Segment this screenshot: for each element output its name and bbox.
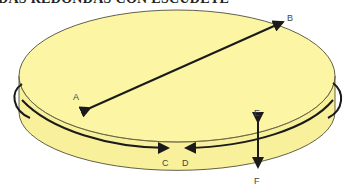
round-cake-diagram: A B C D E F <box>0 0 352 185</box>
label-d: D <box>182 158 189 168</box>
label-a: A <box>73 92 79 102</box>
label-e: E <box>254 108 260 118</box>
label-b: B <box>287 13 293 23</box>
label-f: F <box>254 176 260 185</box>
cylinder-top <box>19 10 335 142</box>
label-c: C <box>162 158 169 168</box>
